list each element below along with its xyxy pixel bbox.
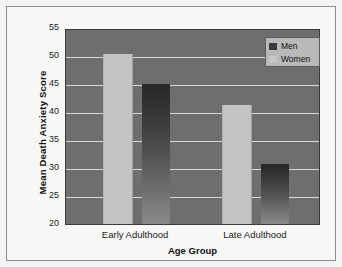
bar-men-late-adulthood: [261, 164, 289, 224]
legend-label-women: Women: [281, 55, 310, 64]
bar-men-early-adulthood: [142, 84, 170, 224]
y-axis-tick-label: 25: [33, 191, 59, 200]
y-axis-tick-label: 40: [33, 107, 59, 116]
bar-women-early-adulthood: [103, 54, 133, 224]
x-axis-tick-label: Early Adulthood: [85, 229, 185, 240]
y-axis-tick-label: 35: [33, 135, 59, 144]
y-axis-tick-label: 50: [33, 51, 59, 60]
x-axis-tick-label: Late Adulthood: [205, 229, 305, 240]
chart-figure: Mean Death Anxiety Score 202530354045505…: [0, 0, 342, 267]
legend-swatch-women-icon: [269, 56, 277, 63]
legend-label-men: Men: [281, 42, 298, 51]
x-axis-title: Age Group: [65, 245, 320, 256]
legend-swatch-men-icon: [269, 43, 277, 50]
figure-frame: Mean Death Anxiety Score 202530354045505…: [6, 6, 336, 261]
y-axis-tick-label: 55: [33, 23, 59, 32]
legend-item-women: Women: [269, 53, 316, 66]
legend-item-men: Men: [269, 40, 316, 53]
chart-legend[interactable]: Men Women: [265, 37, 320, 67]
bar-women-late-adulthood: [222, 105, 252, 224]
y-axis-tick-label: 20: [33, 219, 59, 228]
y-axis-tick-label: 45: [33, 79, 59, 88]
y-axis-tick-label: 30: [33, 163, 59, 172]
